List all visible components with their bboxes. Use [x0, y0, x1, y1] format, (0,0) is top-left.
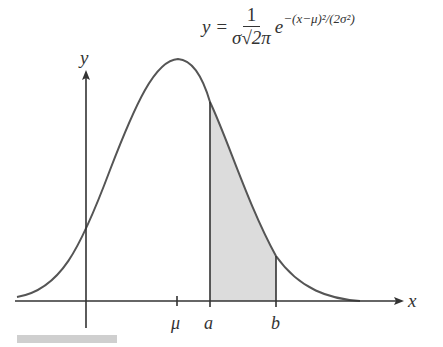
- tick-label-a: a: [204, 313, 213, 333]
- formula-numerator: 1: [243, 4, 261, 27]
- shaded-region: [210, 102, 276, 301]
- y-axis-label: y: [78, 47, 89, 68]
- formula-exponent: −(x−μ)²/(2σ²): [283, 11, 354, 27]
- caption-fragment: [17, 335, 117, 343]
- tick-label-mu: μ: [170, 313, 180, 333]
- bell-curve: [17, 59, 360, 301]
- formula-lhs: y =: [202, 16, 228, 38]
- formula-fraction: 1 σ√2π: [232, 4, 271, 49]
- tick-label-b: b: [271, 313, 280, 333]
- normal-distribution-figure: y x μ a b: [0, 0, 443, 347]
- x-axis-label: x: [407, 290, 417, 311]
- formula-denominator: σ√2π: [232, 27, 271, 49]
- formula-base: e: [275, 16, 283, 38]
- density-formula: y = 1 σ√2π e −(x−μ)²/(2σ²): [202, 4, 355, 49]
